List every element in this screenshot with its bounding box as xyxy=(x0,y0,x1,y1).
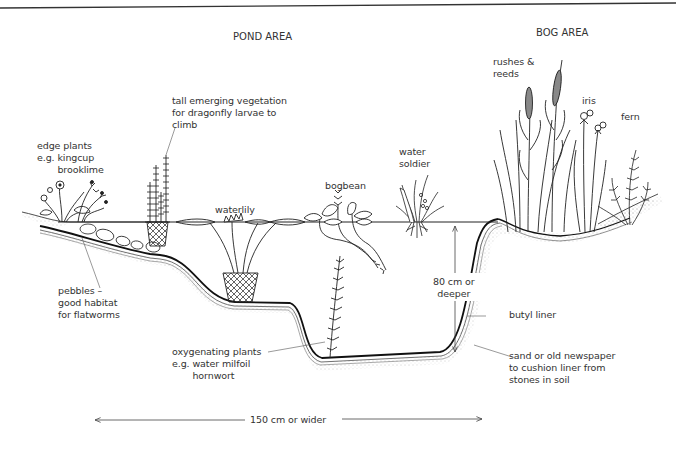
pebbles-label: pebbles – good habitat for flatworms xyxy=(58,285,120,321)
tall-vegetation-icon xyxy=(145,155,170,246)
iris-label: iris xyxy=(582,95,596,107)
pond-area-heading: POND AREA xyxy=(233,31,292,43)
butyl-liner-label: butyl liner xyxy=(509,309,556,321)
leader-lines xyxy=(82,128,512,357)
soil-stipple xyxy=(40,195,655,371)
edge-plants-icon xyxy=(40,181,108,223)
water-soldier-label: water soldier xyxy=(399,146,430,170)
iris-icon xyxy=(574,110,606,232)
bog-area-heading: BOG AREA xyxy=(536,27,588,39)
depth-label: 80 cm or deeper xyxy=(433,276,475,300)
water-soldier-icon xyxy=(396,175,444,238)
rushes-reeds-label: rushes & reeds xyxy=(493,56,534,80)
bogbean-label: bogbean xyxy=(325,180,366,192)
width-label: 150 cm or wider xyxy=(250,414,326,426)
edge-plants-label: edge plants e.g. kingcup brooklime xyxy=(37,140,104,176)
bog-mound xyxy=(600,196,664,232)
top-border-line xyxy=(0,3,676,8)
fern-label: fern xyxy=(621,111,640,123)
sand-cushion-label: sand or old newspaper to cushion liner f… xyxy=(509,350,615,386)
oxygenating-plant-icon xyxy=(327,256,344,358)
oxygenating-plants-label: oxygenating plants e.g. water milfoil ho… xyxy=(172,346,261,382)
bogbean-icon xyxy=(304,190,386,274)
tall-vegetation-label: tall emerging vegetation for dragonfly l… xyxy=(172,95,287,131)
rushes-reeds-icon xyxy=(494,60,576,232)
waterlily-label: waterlily xyxy=(215,204,255,216)
